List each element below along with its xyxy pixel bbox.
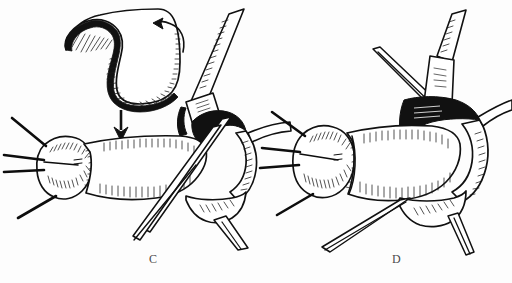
side-branch-vessel bbox=[248, 122, 291, 142]
panel-d-group bbox=[260, 10, 512, 255]
panel-c-group bbox=[4, 9, 291, 250]
graft-body-tube-d bbox=[347, 125, 460, 200]
flap-hatch-light bbox=[72, 33, 112, 52]
advancement-arrow bbox=[114, 110, 128, 141]
graft-bulb-end-d bbox=[293, 126, 356, 198]
curved-graft-flap bbox=[65, 9, 180, 112]
panel-label-c: C bbox=[149, 252, 158, 267]
panel-label-d: D bbox=[392, 252, 401, 267]
lower-anastomosis-tissue bbox=[186, 192, 248, 250]
figure-root: C D bbox=[0, 0, 512, 283]
side-branch-vessel-d bbox=[478, 100, 512, 126]
recipient-vessel bbox=[188, 9, 244, 108]
recipient-vessel-d bbox=[437, 10, 466, 62]
surgical-illustration-canvas bbox=[0, 0, 512, 283]
